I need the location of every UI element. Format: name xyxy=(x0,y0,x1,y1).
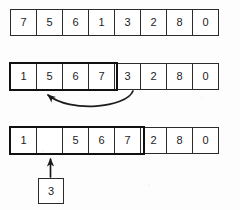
array-row-initial: 7 5 6 1 3 2 8 0 xyxy=(10,9,219,36)
array-row-shifted: 1 5 6 7 2 8 0 xyxy=(10,127,219,154)
insert-move-arrow xyxy=(48,91,133,106)
diagram-canvas: 7 5 6 1 3 2 8 0 1 5 6 7 3 2 8 0 1 5 6 7 … xyxy=(0,0,240,210)
array-cell: 2 xyxy=(140,9,167,36)
array-cell: 8 xyxy=(166,127,193,154)
array-cell-empty xyxy=(36,127,63,154)
array-cell: 1 xyxy=(10,127,37,154)
array-cell: 6 xyxy=(62,9,89,36)
array-cell: 0 xyxy=(192,63,219,90)
array-cell: 1 xyxy=(10,63,37,90)
array-cell: 5 xyxy=(36,63,63,90)
array-cell: 3 xyxy=(114,63,141,90)
array-cell: 7 xyxy=(10,9,37,36)
array-cell: 2 xyxy=(140,63,167,90)
array-cell: 7 xyxy=(88,63,115,90)
array-row-middle: 1 5 6 7 3 2 8 0 xyxy=(10,63,219,90)
array-cell: 2 xyxy=(140,127,167,154)
array-cell: 0 xyxy=(192,9,219,36)
array-cell: 7 xyxy=(114,127,141,154)
array-cell: 6 xyxy=(88,127,115,154)
array-cell: 5 xyxy=(62,127,89,154)
array-cell: 8 xyxy=(166,9,193,36)
array-cell: 0 xyxy=(192,127,219,154)
array-cell: 6 xyxy=(62,63,89,90)
array-cell: 8 xyxy=(166,63,193,90)
array-cell: 1 xyxy=(88,9,115,36)
array-cell: 3 xyxy=(114,9,141,36)
array-cell: 5 xyxy=(36,9,63,36)
held-value-box: 3 xyxy=(38,178,64,204)
